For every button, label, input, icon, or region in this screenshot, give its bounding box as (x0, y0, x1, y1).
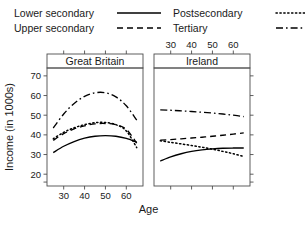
legend-key-dotted-icon (275, 7, 305, 19)
xtick-label-top: 30 (165, 39, 176, 50)
legend-entry-upper-secondary: Upper secondary (14, 21, 162, 35)
legend-label-postsecondary: Postsecondary (173, 7, 269, 19)
legend-entry-postsecondary: Postsecondary (173, 6, 305, 20)
panel-frame-2 (154, 68, 250, 186)
series-line-great-britain-postsecondary (53, 122, 136, 147)
xtick-label-bottom: 30 (58, 190, 69, 201)
legend-label-upper-secondary: Upper secondary (14, 22, 110, 34)
legend-column-right: Postsecondary Tertiary (173, 6, 305, 36)
xtick-label-bottom: 40 (79, 190, 90, 201)
ytick-label: 60 (30, 90, 41, 101)
series-line-ireland-upper-secondary (160, 133, 243, 140)
panel-frame-1 (47, 68, 143, 186)
chart-figure: Lower secondary Upper secondary Postseco… (0, 0, 305, 235)
xtick-label-top: 40 (186, 39, 197, 50)
chart-legend: Lower secondary Upper secondary Postseco… (0, 0, 305, 40)
ytick-label: 40 (30, 129, 41, 140)
series-line-ireland-tertiary (160, 110, 243, 117)
legend-key-dashed-icon (116, 22, 162, 34)
panel-strip-label-2: Ireland (186, 55, 218, 67)
series-line-ireland-lower-secondary (160, 148, 243, 161)
xtick-label-bottom: 50 (100, 190, 111, 201)
ytick-label: 70 (30, 70, 41, 81)
legend-key-solid-icon (116, 7, 162, 19)
legend-label-tertiary: Tertiary (173, 22, 269, 34)
xtick-label-bottom: 60 (121, 190, 132, 201)
legend-entry-tertiary: Tertiary (173, 21, 305, 35)
series-line-great-britain-lower-secondary (53, 136, 136, 153)
series-line-great-britain-upper-secondary (53, 123, 136, 143)
series-line-great-britain-tertiary (53, 92, 136, 128)
ytick-label: 50 (30, 110, 41, 121)
ytick-label: 20 (30, 169, 41, 180)
legend-column-left: Lower secondary Upper secondary (14, 6, 162, 36)
y-axis-title: Income (in 1000s) (3, 83, 15, 171)
xtick-label-top: 50 (207, 39, 218, 50)
legend-key-dashdot-icon (275, 22, 305, 34)
x-axis-title: Age (139, 203, 159, 215)
panel-strip-label-1: Great Britain (66, 55, 125, 67)
legend-entry-lower-secondary: Lower secondary (14, 6, 162, 20)
legend-label-lower-secondary: Lower secondary (14, 7, 110, 19)
ytick-label: 30 (30, 149, 41, 160)
xtick-label-top: 60 (228, 39, 239, 50)
